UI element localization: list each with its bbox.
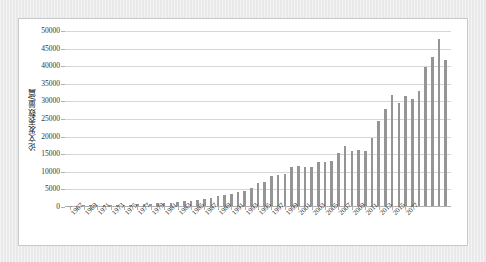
bar-slot (422, 31, 429, 206)
bar (444, 60, 447, 206)
bar (324, 162, 327, 206)
bar-slot (228, 31, 235, 206)
y-axis-tick-label: 5000 (45, 186, 60, 194)
bar-slot (147, 31, 154, 206)
bar (297, 166, 300, 206)
bar (418, 91, 421, 206)
y-axis-title-label: 论文发表数量/篇 (27, 88, 38, 151)
bar-slot (302, 31, 309, 206)
y-axis-tick-label: 35000 (41, 80, 60, 88)
bar-slot (80, 31, 87, 206)
bar (398, 103, 401, 206)
bar-slot (241, 31, 248, 206)
bar-slot (94, 31, 101, 206)
bar-slot (295, 31, 302, 206)
y-axis-tick-label: 25000 (41, 115, 60, 123)
bar-slot (154, 31, 161, 206)
bar-slot (114, 31, 121, 206)
bar-slot (389, 31, 396, 206)
bar-slot (382, 31, 389, 206)
bar (371, 138, 374, 206)
bar-slot (161, 31, 168, 206)
bar-slot (402, 31, 409, 206)
bar (424, 67, 427, 206)
bar (290, 167, 293, 206)
y-axis-tick-label: 0 (56, 203, 60, 211)
bar (317, 162, 320, 206)
bar-slot (74, 31, 81, 206)
bar (270, 176, 273, 206)
bar-slot (248, 31, 255, 206)
bar-slot (322, 31, 329, 206)
bar-slot (342, 31, 349, 206)
bar-slot (235, 31, 242, 206)
bar (404, 96, 407, 206)
bar-slot (255, 31, 262, 206)
bar (257, 183, 260, 206)
bar (364, 151, 367, 206)
bar-slot (87, 31, 94, 206)
bar-slot (369, 31, 376, 206)
plot-area: 5000045000400003500030000250002000015000… (65, 31, 451, 207)
bar-slot (188, 31, 195, 206)
bar-slot (429, 31, 436, 206)
bar-slot (315, 31, 322, 206)
bar-slot (134, 31, 141, 206)
bar-slot (141, 31, 148, 206)
bar-slot (349, 31, 356, 206)
y-axis-title: 论文发表数量/篇 (25, 31, 39, 207)
y-axis-tick-label: 10000 (41, 168, 60, 176)
bar-slot (436, 31, 443, 206)
x-axis-ticks: 1967196919711973197519771979198119831985… (65, 207, 451, 251)
bar-slot (275, 31, 282, 206)
bar-slot (107, 31, 114, 206)
bar-slot (194, 31, 201, 206)
y-axis-tick-label: 50000 (41, 27, 60, 35)
bar (243, 191, 246, 206)
bar-slot (355, 31, 362, 206)
bar (411, 99, 414, 206)
bar-slot (395, 31, 402, 206)
bar-slot (261, 31, 268, 206)
bar-slot (442, 31, 449, 206)
bar-slot (288, 31, 295, 206)
bar (384, 109, 387, 206)
bar-slot (335, 31, 342, 206)
bar-slot (201, 31, 208, 206)
bar-slot (221, 31, 228, 206)
bar (304, 167, 307, 206)
bar-slot (174, 31, 181, 206)
bar-slot (282, 31, 289, 206)
chart-frame: 论文发表数量/篇 5000045000400003500030000250002… (18, 18, 468, 246)
bar (310, 167, 313, 206)
y-axis-tick-label: 15000 (41, 150, 60, 158)
bar-slot (362, 31, 369, 206)
bar-slot (208, 31, 215, 206)
bar-slot (375, 31, 382, 206)
bar-slot (268, 31, 275, 206)
plot-canvas: 5000045000400003500030000250002000015000… (65, 31, 451, 207)
bar-series (65, 31, 451, 206)
bar (337, 153, 340, 206)
bar-slot (181, 31, 188, 206)
bar-slot (168, 31, 175, 206)
bar-slot (127, 31, 134, 206)
bar (330, 161, 333, 206)
bar (391, 95, 394, 206)
y-axis-tick-label: 40000 (41, 62, 60, 70)
bar-slot (121, 31, 128, 206)
bar-slot (101, 31, 108, 206)
bar-slot (416, 31, 423, 206)
bar (284, 174, 287, 206)
bar-slot (67, 31, 74, 206)
y-axis-tick-label: 20000 (41, 133, 60, 141)
page-background: 论文发表数量/篇 5000045000400003500030000250002… (0, 0, 486, 262)
bar (69, 206, 72, 207)
y-axis-tick-label: 30000 (41, 98, 60, 106)
bar (357, 150, 360, 206)
bar-slot (308, 31, 315, 206)
y-axis-tick-label: 45000 (41, 45, 60, 53)
bar (377, 121, 380, 206)
bar (344, 146, 347, 206)
bar-slot (409, 31, 416, 206)
